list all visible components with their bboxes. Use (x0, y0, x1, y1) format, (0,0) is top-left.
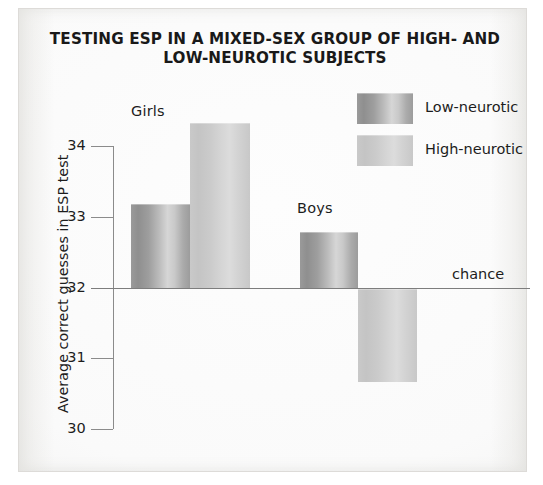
y-tick-30 (91, 429, 113, 430)
bar-boys-high-neurotic[interactable] (358, 289, 417, 382)
y-axis-label: Average correct guesses in ESP test (55, 183, 71, 413)
bar-boys-low-neurotic[interactable] (300, 232, 358, 288)
bar-girls-high-neurotic[interactable] (190, 123, 250, 288)
y-tick-34 (91, 146, 113, 147)
bar-girls-low-neurotic[interactable] (131, 204, 190, 288)
y-tick-label-30: 30 (52, 420, 86, 436)
y-tick-label-34: 34 (52, 137, 86, 153)
group-label-girls: Girls (131, 103, 165, 119)
legend-swatch-low-neurotic (357, 93, 413, 124)
chance-baseline (91, 288, 530, 289)
chance-label: chance (452, 266, 504, 282)
legend-label-high-neurotic: High-neurotic (425, 141, 523, 157)
chart-figure: TESTING ESP IN A MIXED-SEX GROUP OF HIGH… (0, 0, 543, 485)
legend-swatch-high-neurotic (357, 135, 413, 166)
group-label-boys: Boys (297, 200, 333, 216)
y-tick-33 (91, 217, 113, 218)
plot-area: 34 33 32 31 30 Average correct guesses i… (0, 0, 543, 485)
legend-label-low-neurotic: Low-neurotic (425, 99, 518, 115)
y-tick-31 (91, 358, 113, 359)
